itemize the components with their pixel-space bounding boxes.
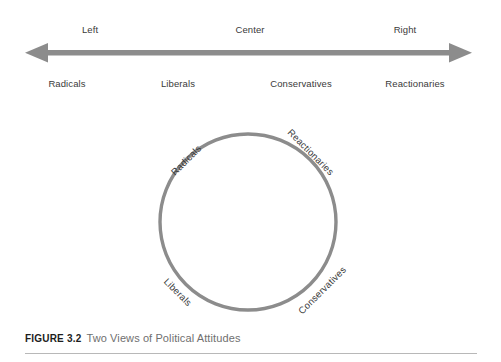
figure-container: Left Center Right Radicals Liberals Cons…: [0, 0, 501, 362]
circular-spectrum-diagram: Radicals Reactionaries Liberals Conserva…: [0, 108, 501, 323]
circle-shape: [0, 108, 501, 323]
axis-bottom-label-conservatives: Conservatives: [270, 78, 332, 89]
axis-top-label-center: Center: [235, 24, 264, 35]
axis-bottom-label-reactionaries: Reactionaries: [385, 78, 444, 89]
axis-top-label-left: Left: [82, 24, 98, 35]
axis-bottom-label-radicals: Radicals: [48, 78, 85, 89]
linear-spectrum-diagram: Left Center Right Radicals Liberals Cons…: [0, 0, 501, 100]
figure-title: Two Views of Political Attitudes: [86, 332, 240, 344]
axis-top-label-right: Right: [394, 24, 417, 35]
axis-bottom-label-liberals: Liberals: [161, 78, 195, 89]
double-headed-arrow-icon: [0, 40, 501, 66]
figure-number: FIGURE 3.2: [25, 333, 81, 344]
caption-divider: [25, 353, 477, 354]
figure-caption: FIGURE 3.2Two Views of Political Attitud…: [25, 328, 240, 346]
